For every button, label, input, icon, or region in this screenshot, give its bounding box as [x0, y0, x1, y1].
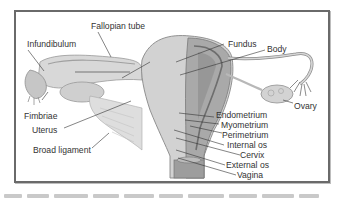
label-fundus: Fundus — [228, 40, 257, 49]
label-endometrium: Endometrium — [216, 111, 267, 120]
uterus-anatomy-illustration — [0, 0, 342, 201]
label-ovary: Ovary — [294, 102, 317, 111]
label-uterus: Uterus — [32, 126, 57, 135]
label-cervix: Cervix — [240, 151, 264, 160]
label-body: Body — [267, 45, 287, 54]
label-fallopian-tube: Fallopian tube — [91, 22, 145, 31]
label-internal-os: Internal os — [227, 141, 267, 150]
label-external-os: External os — [226, 161, 269, 170]
label-fimbriae: Fimbriae — [24, 112, 57, 121]
label-broad-ligament: Broad ligament — [33, 146, 91, 155]
figure-caption-cropped — [4, 192, 340, 201]
label-myometrium: Myometrium — [221, 121, 268, 130]
label-infundibulum: Infundibulum — [27, 40, 76, 49]
label-perimetrium: Perimetrium — [222, 131, 268, 140]
label-vagina: Vagina — [237, 171, 263, 180]
